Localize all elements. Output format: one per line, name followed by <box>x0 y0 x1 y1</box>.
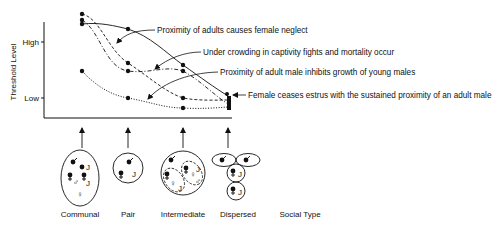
point-cluster <box>227 96 231 110</box>
category-arrows <box>82 128 228 148</box>
point <box>126 69 130 73</box>
curve-estrus <box>82 71 228 108</box>
dispersed-group-icon: J J <box>212 154 260 201</box>
point <box>80 18 84 22</box>
svg-text:♀: ♀ <box>77 190 83 199</box>
threshold-social-type-diagram: High Low Threshold Level Proximity of ad… <box>0 0 502 231</box>
svg-text:J: J <box>178 184 182 193</box>
arrow-crowding <box>155 52 201 69</box>
annotations: Proximity of adults causes female neglec… <box>117 26 492 100</box>
axes: High Low Threshold Level <box>9 22 232 118</box>
point <box>126 61 130 65</box>
svg-text:J: J <box>132 170 136 179</box>
svg-text:J: J <box>86 163 90 172</box>
point <box>126 27 130 31</box>
svg-text:♂: ♂ <box>73 178 79 187</box>
pair-group-icon: J <box>113 153 143 183</box>
y-axis-title: Threshold Level <box>9 43 18 100</box>
point <box>225 92 229 96</box>
svg-text:J: J <box>196 165 200 174</box>
svg-text:♂: ♂ <box>195 177 201 186</box>
tick-label-high: High <box>23 38 39 47</box>
label-estrus: Female ceases estrus with the sustained … <box>248 91 492 100</box>
label-female-neglect: Proximity of adults causes female neglec… <box>157 26 308 35</box>
intermediate-group-icon: ♀ J ♀ J ♂ <box>159 151 207 196</box>
category-intermediate: Intermediate <box>161 210 206 219</box>
point <box>181 96 185 100</box>
label-young-males: Proximity of adult male inhibits growth … <box>220 68 415 77</box>
point <box>181 69 185 73</box>
svg-text:J: J <box>238 170 242 179</box>
tick-label-low: Low <box>24 94 39 103</box>
point <box>80 69 84 73</box>
point <box>80 22 84 26</box>
svg-text:♀: ♀ <box>170 179 176 188</box>
x-axis-title: Social Type <box>279 210 321 219</box>
communal-group-icon: J ♂ J ♀ <box>61 150 99 206</box>
category-pair: Pair <box>121 210 136 219</box>
svg-text:J: J <box>238 188 242 197</box>
svg-text:J: J <box>86 179 90 188</box>
label-crowding: Under crowding in captivity fights and m… <box>203 48 394 57</box>
arrow-young-males <box>148 72 218 99</box>
category-labels: Communal Pair Intermediate Dispersed Soc… <box>61 210 321 219</box>
category-dispersed: Dispersed <box>220 210 256 219</box>
point <box>126 96 130 100</box>
arrow-female-neglect <box>117 30 155 43</box>
category-communal: Communal <box>61 210 100 219</box>
point <box>80 12 84 16</box>
point <box>181 106 185 110</box>
point <box>181 63 185 67</box>
